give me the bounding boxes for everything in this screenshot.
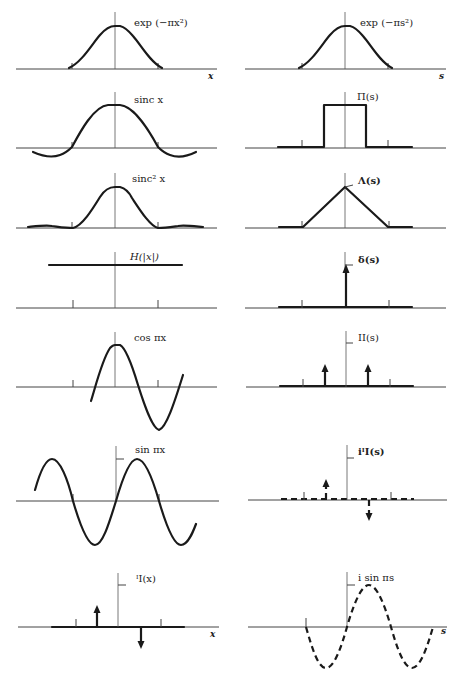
panel-left-sinc: sinc x <box>16 92 217 156</box>
panel-right-rectangle: Π(s) <box>245 91 446 148</box>
panel-left-constant: H(|x|) <box>16 251 217 308</box>
panel-right-even-impulse-pair: II(s) <box>246 331 446 387</box>
up-arrow-icon <box>323 479 330 487</box>
panel-right-imaginary-sine: i sin πs s <box>248 572 447 668</box>
panel-left-cosine: cos πx <box>16 332 217 430</box>
panel-right-triangle: Λ(s) <box>245 173 446 228</box>
label-constant-x: H(|x|) <box>129 251 159 263</box>
s-axis-label: s <box>439 71 444 81</box>
sinc-squared-curve <box>28 187 203 228</box>
x-axis-label: x <box>207 71 214 81</box>
label-gaussian-x: exp (−πx²) <box>134 17 188 28</box>
label-gaussian-s: exp (−πs²) <box>360 17 413 28</box>
label-sine-x: sin πx <box>135 444 166 455</box>
label-imaginary-odd-impulse-s: iᴵI(s) <box>358 446 385 457</box>
down-arrow-icon <box>366 513 373 521</box>
triangle-curve <box>279 187 412 227</box>
label-cosine-x: cos πx <box>134 332 167 343</box>
label-sinc-squared-x: sinc² x <box>132 173 166 184</box>
up-arrow-icon <box>365 364 372 372</box>
panel-left-sine: sin πx <box>16 444 219 545</box>
panel-right-delta: δ(s) <box>245 252 446 308</box>
x-axis-label: x <box>209 629 216 639</box>
gaussian-curve <box>299 26 392 68</box>
s-axis-label: s <box>441 626 446 636</box>
fourier-pairs-figure: exp (−πx²) x sinc x sinc² x H(|x|) cos π <box>0 0 463 679</box>
tick <box>345 185 353 187</box>
panel-right-imaginary-odd-impulse-pair: iᴵI(s) <box>248 445 447 521</box>
up-arrow-icon <box>322 364 329 372</box>
sine-curve <box>35 459 196 545</box>
label-odd-impulse-x: ᴵI(x) <box>136 573 156 584</box>
up-arrow-icon <box>94 605 101 613</box>
label-imaginary-sine-s: i sin πs <box>358 572 394 583</box>
label-even-impulse-s: II(s) <box>358 332 379 343</box>
panel-right-gaussian: exp (−πs²) s <box>245 12 446 81</box>
label-delta-s: δ(s) <box>358 254 380 265</box>
label-rectangle-s: Π(s) <box>357 91 379 102</box>
label-triangle-s: Λ(s) <box>357 175 381 186</box>
gaussian-curve <box>69 26 162 68</box>
panel-left-sinc-squared: sinc² x <box>16 173 217 228</box>
label-sinc-x: sinc x <box>134 94 164 105</box>
panel-left-odd-impulse-pair: ᴵI(x) x <box>18 573 219 649</box>
panel-left-gaussian: exp (−πx²) x <box>16 12 217 81</box>
down-arrow-icon <box>138 641 145 649</box>
sinc-curve <box>33 105 196 156</box>
